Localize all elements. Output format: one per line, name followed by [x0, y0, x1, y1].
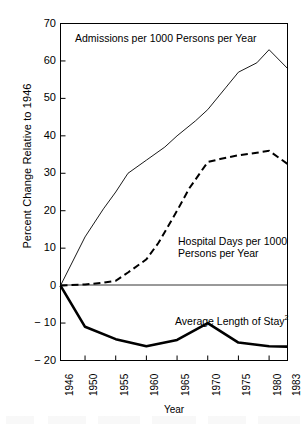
chart-figure: 706050403020100− 10− 20 1946195019551960… [0, 0, 306, 424]
x-tick-label: 1950 [89, 374, 99, 396]
annotation-average-length-of-stay-text: Average Length of Stay [175, 315, 285, 327]
annotation-hospital-days-line2: Persons per Year [178, 247, 259, 259]
x-tick-label: 1960 [150, 374, 160, 396]
caption-strip-partial [0, 416, 306, 424]
x-axis-tick-labels: 194619501955196019651970197519801983 [0, 0, 306, 424]
annotation-admissions: Admissions per 1000 Persons per Year [75, 32, 257, 44]
x-tick-label: 1955 [120, 374, 130, 396]
x-tick-label: 1965 [181, 374, 191, 396]
annotation-hospital-days-line1: Hospital Days per 1000 [178, 235, 287, 247]
annotation-footnote-marker: 2 [285, 314, 289, 321]
x-axis-title: Year [60, 404, 288, 415]
x-tick-label: 1975 [242, 374, 252, 396]
y-axis-title: Percent Change Relative to 1946 [21, 81, 33, 251]
x-tick-label: 1946 [65, 374, 75, 396]
x-tick-label: 1980 [273, 374, 283, 396]
annotation-average-length-of-stay: Average Length of Stay2 [175, 312, 288, 327]
x-tick-label: 1983 [292, 374, 302, 396]
x-tick-label: 1970 [212, 374, 222, 396]
